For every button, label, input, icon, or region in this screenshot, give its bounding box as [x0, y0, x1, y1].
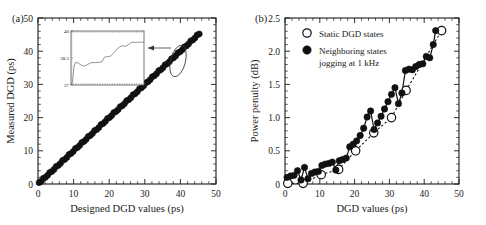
data-point-series-1: [364, 114, 370, 120]
x-tick-label: 0: [36, 189, 41, 199]
panel-b-plot: (b) 0102030405000.51.01.52.02.5 DGD valu…: [243, 0, 486, 225]
legend-label-jogging-line2: jogging at 1 kHz: [318, 58, 379, 68]
annotation-arrow-head: [148, 45, 154, 50]
y-tick-label: 20: [24, 113, 34, 123]
x-tick-label: 50: [454, 189, 464, 199]
panel-b-ylabel: Power penulty (dB): [249, 59, 261, 142]
data-point-series-1: [374, 120, 380, 126]
inset-y-tick-label: 37: [64, 83, 70, 88]
inset-frame: [71, 31, 144, 85]
x-tick-label: 20: [104, 189, 114, 199]
panel-a-ylabel: Measured DGD (ps): [5, 58, 17, 144]
panel-b: (b) 0102030405000.51.01.52.02.5 DGD valu…: [243, 0, 486, 225]
data-point-series-1: [378, 113, 384, 119]
data-point-series-1: [294, 168, 300, 174]
panel-a-xlabel: Designed DGD values (ps): [70, 203, 184, 215]
y-tick-label: 1.5: [268, 80, 280, 90]
x-tick-label: 30: [385, 189, 395, 199]
x-tick-label: 30: [140, 189, 150, 199]
data-point-series-1: [430, 41, 436, 47]
data-point-series-0: [387, 113, 395, 121]
panel-a-inset: [71, 31, 144, 85]
data-point-series-1: [420, 61, 426, 67]
data-point-series-1: [343, 155, 349, 161]
legend-marker-static: [303, 29, 311, 37]
data-point-series-1: [367, 108, 373, 114]
figure-container: (a) 0102030405001020304050 Designed DGD …: [0, 0, 486, 225]
legend-label-static: Static DGD states: [319, 29, 384, 39]
data-point-series-1: [298, 177, 304, 183]
y-tick-label: 30: [24, 80, 34, 90]
data-point-series-1: [357, 132, 363, 138]
inset-tick-labels: 3738.540: [60, 29, 69, 88]
data-point-series-1: [392, 85, 398, 91]
data-point-series-1: [315, 168, 321, 174]
y-tick-label: 0: [28, 180, 33, 190]
x-tick-label: 0: [283, 189, 288, 199]
y-tick-label: 0: [275, 180, 280, 190]
data-point-series-1: [388, 91, 394, 97]
data-point-series-1: [385, 98, 391, 104]
panel-a-label: (a): [12, 13, 24, 25]
y-tick-label: 10: [24, 146, 34, 156]
data-point-series-1: [371, 126, 377, 132]
x-tick-label: 10: [315, 189, 325, 199]
legend-label-jogging-line1: Neighboring states: [319, 46, 387, 56]
data-point-series-1: [301, 164, 307, 170]
y-tick-label: 1.0: [268, 113, 280, 123]
panel-a: (a) 0102030405001020304050 Designed DGD …: [0, 0, 243, 225]
panel-b-xlabel: DGD values (ps): [336, 203, 408, 215]
data-point-series-1: [333, 167, 339, 173]
y-tick-label: 40: [24, 47, 34, 57]
legend-marker-jogging: [303, 46, 311, 54]
data-point: [196, 31, 202, 37]
data-point-series-1: [399, 90, 405, 96]
y-tick-label: 50: [24, 14, 34, 24]
y-tick-label: 2.5: [268, 14, 280, 24]
data-point-series-1: [395, 100, 401, 106]
panel-b-legend: Static DGD states Neighboring states jog…: [303, 29, 387, 68]
panel-b-label: (b): [255, 13, 268, 25]
data-point-series-1: [381, 106, 387, 112]
inset-y-tick-label: 40: [64, 29, 70, 34]
y-tick-label: 0.5: [268, 146, 280, 156]
x-tick-label: 40: [176, 189, 186, 199]
data-point-series-1: [427, 55, 433, 61]
data-point-series-1: [432, 27, 438, 33]
data-point-series-1: [329, 159, 335, 165]
data-point-series-1: [360, 125, 366, 131]
panel-a-plot: (a) 0102030405001020304050 Designed DGD …: [0, 0, 243, 225]
x-tick-label: 20: [350, 189, 360, 199]
x-tick-label: 10: [69, 189, 79, 199]
inset-y-tick-label: 38.5: [60, 56, 69, 61]
x-tick-label: 50: [211, 189, 221, 199]
x-tick-label: 40: [419, 189, 429, 199]
y-tick-label: 2.0: [268, 47, 280, 57]
